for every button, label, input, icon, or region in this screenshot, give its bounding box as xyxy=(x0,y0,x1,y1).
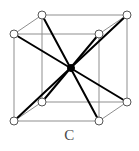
atom-back-top-right xyxy=(123,11,131,19)
atom-back-bottom-left xyxy=(38,98,46,106)
atom-back-top-left xyxy=(38,11,46,19)
atom-front-top-right xyxy=(95,30,103,38)
atom-body-center xyxy=(68,65,75,72)
figure-container: C xyxy=(0,0,139,151)
edge-depth-bottom-right xyxy=(99,102,127,121)
edge-depth-top-left xyxy=(14,15,42,34)
atom-front-bottom-right xyxy=(95,117,103,125)
atom-back-bottom-right xyxy=(123,98,131,106)
atom-front-top-left xyxy=(10,30,18,38)
figure-caption-label: C xyxy=(0,126,139,144)
atom-front-bottom-left xyxy=(10,117,18,125)
